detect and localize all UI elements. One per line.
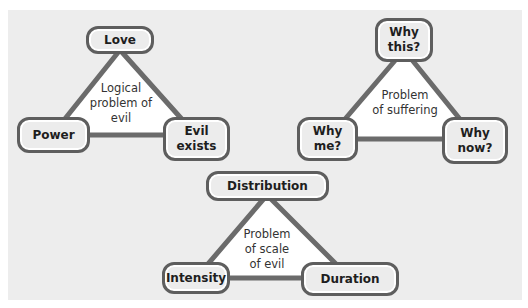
- node-intensity: Intensity: [162, 262, 230, 294]
- label-problem-of-scale-of-evil: Problem of scale of evil: [235, 227, 299, 272]
- node-why-now: Why now?: [442, 117, 508, 164]
- node-why-me: Why me?: [297, 117, 358, 161]
- node-duration: Duration: [301, 262, 399, 296]
- center-line: Problem: [367, 88, 443, 103]
- node-evil-exists: Evil exists: [163, 117, 230, 161]
- center-line: evil: [85, 111, 157, 126]
- label-logical-problem-of-evil: Logical problem of evil: [85, 81, 157, 126]
- node-power-label: Power: [32, 128, 74, 143]
- center-line: Logical: [85, 81, 157, 96]
- center-line: Problem: [235, 227, 299, 242]
- node-why-this-line1: Why: [389, 25, 419, 40]
- node-why-this: Why this?: [375, 18, 433, 62]
- node-why-now-line1: Why: [460, 126, 490, 141]
- node-love-label: Love: [104, 33, 136, 48]
- center-line: of suffering: [367, 103, 443, 118]
- node-evil-exists-line1: Evil: [184, 124, 208, 139]
- node-evil-exists-line2: exists: [176, 139, 216, 154]
- node-love: Love: [86, 26, 154, 54]
- node-intensity-label: Intensity: [166, 271, 226, 286]
- node-distribution-label: Distribution: [227, 179, 308, 194]
- node-duration-label: Duration: [320, 272, 379, 287]
- center-line: of scale: [235, 242, 299, 257]
- node-why-now-line2: now?: [458, 141, 493, 156]
- node-why-me-line1: Why: [313, 124, 343, 139]
- center-line: of evil: [235, 257, 299, 272]
- node-power: Power: [17, 117, 90, 153]
- center-line: problem of: [85, 96, 157, 111]
- label-problem-of-suffering: Problem of suffering: [367, 88, 443, 118]
- node-why-this-line2: this?: [388, 40, 421, 55]
- node-why-me-line2: me?: [314, 139, 342, 154]
- node-distribution: Distribution: [206, 171, 329, 201]
